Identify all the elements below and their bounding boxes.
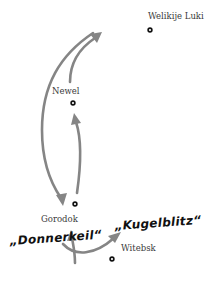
- town-label: Gorodok: [41, 214, 79, 224]
- town-marker-icon: [73, 202, 77, 206]
- operation-kugelblitz-label: „Kugelblitz“: [113, 213, 201, 233]
- arrow-outer-southward: [42, 33, 93, 198]
- arrow-gorodok-to-newel: [76, 122, 80, 193]
- town-marker-icon: [71, 101, 75, 105]
- town-label: Witebsk: [121, 243, 157, 253]
- town-label: Newel: [52, 86, 80, 96]
- town-marker-icon: [148, 28, 152, 32]
- town-newel: Newel: [52, 86, 80, 105]
- town-marker-icon: [110, 257, 114, 261]
- operation-donnerkeil-label: „Donnerkeil“: [8, 228, 102, 248]
- town-witebsk: Witebsk: [110, 243, 156, 261]
- town-label: Welikije Luki: [148, 11, 204, 21]
- arrowhead-gorodok-to-newel-icon: [71, 113, 81, 125]
- operations-map: Welikije Luki Newel Gorodok Witebsk „Don…: [0, 0, 211, 284]
- town-gorodok: Gorodok: [41, 202, 79, 224]
- arrowhead-outer-southward-icon: [56, 193, 67, 206]
- arrow-inner-northward: [70, 38, 95, 82]
- town-welikije-luki: Welikije Luki: [148, 11, 204, 32]
